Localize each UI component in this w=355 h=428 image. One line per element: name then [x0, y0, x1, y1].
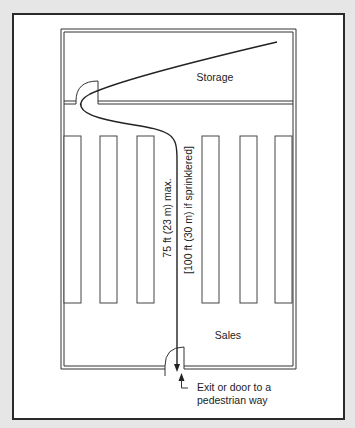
storage-label: Storage: [197, 71, 234, 83]
racks: [64, 136, 292, 303]
exit-label-line2: pedestrian way: [197, 394, 268, 406]
rack-3: [137, 136, 154, 303]
travel-distance-max-label: 75 ft (23 m) max.: [161, 178, 173, 257]
rack-1: [64, 136, 81, 303]
rack-5: [240, 136, 257, 303]
path-arrow-icon: [174, 364, 180, 372]
sales-label: Sales: [215, 329, 241, 341]
outer-walls: [61, 29, 296, 369]
rack-4: [202, 136, 219, 303]
rack-6: [275, 136, 292, 303]
partition-wall: [64, 81, 293, 104]
exit-leader: [179, 373, 189, 388]
exit-door: [165, 347, 184, 376]
travel-distance-sprinklered-label: [100 ft (30 m) if sprinklered]: [182, 146, 194, 274]
floor-plan: Storage Sales 75 ft (23 m) max. [100 ft …: [0, 0, 355, 428]
rack-2: [100, 136, 117, 303]
leader-arrow-icon: [179, 373, 185, 381]
storage-door: [76, 81, 98, 101]
exit-label-line1: Exit or door to a: [197, 381, 271, 393]
